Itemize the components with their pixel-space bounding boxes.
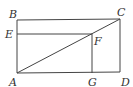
label-a: A xyxy=(8,76,17,87)
diagonal-ac xyxy=(17,19,120,73)
label-c: C xyxy=(117,6,126,19)
label-e: E xyxy=(4,28,13,41)
label-d: D xyxy=(120,76,130,87)
segment-da xyxy=(17,72,120,73)
label-g: G xyxy=(88,76,97,87)
label-f: F xyxy=(93,35,102,48)
geometry-diagram: B C E F A G D xyxy=(0,0,133,87)
label-b: B xyxy=(8,8,17,21)
segment-bc xyxy=(17,19,120,20)
